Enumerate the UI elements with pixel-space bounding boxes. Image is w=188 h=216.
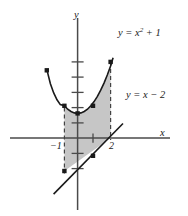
point-marker (108, 60, 112, 64)
figure-container: y = x2 + 1 y = x − 2 y x −1 2 (0, 0, 188, 216)
point-marker (91, 154, 95, 158)
x-tick-label-2: 2 (109, 141, 114, 151)
point-marker (75, 111, 79, 115)
line-equation-label: y = x − 2 (126, 90, 165, 101)
point-marker (62, 104, 66, 108)
y-axis-label: y (74, 10, 79, 21)
curve-equation-label: y = x2 + 1 (118, 28, 161, 39)
point-marker (45, 68, 49, 72)
point-marker (91, 104, 95, 108)
shaded-region (64, 66, 110, 171)
x-axis-label: x (160, 128, 165, 139)
x-tick-label-neg1: −1 (50, 141, 62, 151)
point-marker (62, 169, 66, 173)
